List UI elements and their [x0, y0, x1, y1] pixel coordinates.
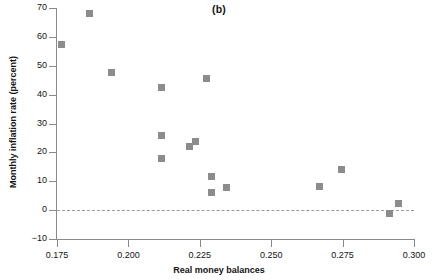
x-axis-tick-label-text: 0.275 [313, 250, 373, 261]
x-axis-tick-label: 0.275 [313, 250, 373, 261]
x-axis-tick [200, 240, 201, 247]
y-axis-tick-label: 60 [0, 32, 47, 41]
x-axis-tick-label-text: 0.300 [384, 250, 438, 261]
y-axis-tick [49, 181, 56, 182]
data-point [223, 184, 230, 191]
x-axis-tick [128, 240, 129, 247]
data-point [58, 41, 65, 48]
data-point [208, 173, 215, 180]
y-axis-tick [49, 152, 56, 153]
y-axis-tick [49, 124, 56, 125]
x-axis-tick-label-text: 0.225 [170, 250, 230, 261]
y-axis-tick-label: −10 [0, 234, 47, 243]
x-axis-tick-label-text: 0.175 [27, 250, 87, 261]
y-axis-tick-label: 70 [0, 3, 47, 12]
y-axis-tick [49, 8, 56, 9]
y-axis-tick [49, 95, 56, 96]
y-axis-tick-label: 0 [0, 205, 47, 214]
y-axis-tick [49, 66, 56, 67]
x-axis-tick [271, 240, 272, 247]
data-point [316, 183, 323, 190]
y-axis-tick [49, 239, 56, 240]
x-axis-tick-label: 0.300 [384, 250, 438, 261]
data-point [338, 166, 345, 173]
x-axis-tick [414, 240, 415, 247]
data-point [208, 189, 215, 196]
data-point [386, 210, 393, 217]
data-point [192, 138, 199, 145]
x-axis-tick-label: 0.175 [27, 250, 87, 261]
data-point [158, 132, 165, 139]
x-axis-line [56, 239, 415, 240]
y-axis-tick-label-text: 60 [3, 32, 47, 41]
x-axis-tick-label-text: 0.200 [98, 250, 158, 261]
x-axis-tick-label: 0.225 [170, 250, 230, 261]
y-axis-tick [49, 210, 56, 211]
data-point [108, 69, 115, 76]
data-point [86, 10, 93, 17]
data-point [203, 75, 210, 82]
x-axis-tick [57, 240, 58, 247]
data-point [395, 200, 402, 207]
plot-area [57, 8, 414, 239]
x-axis-tick [343, 240, 344, 247]
data-point [158, 84, 165, 91]
y-axis-tick-label-text: 70 [3, 3, 47, 12]
y-axis-tick [49, 37, 56, 38]
y-axis-tick-label-text: −10 [3, 234, 47, 243]
y-axis-tick-label-text: 0 [3, 205, 47, 214]
x-axis-tick-label: 0.200 [98, 250, 158, 261]
zero-reference-line [57, 210, 414, 211]
scatter-plot-figure: (b) −10010203040506070 0.1750.2000.2250.… [0, 0, 438, 280]
x-axis-tick-label: 0.250 [241, 250, 301, 261]
data-point [158, 155, 165, 162]
y-axis-title: Monthly inflation rate (percent) [8, 47, 18, 197]
x-axis-title: Real money balances [0, 265, 438, 275]
x-axis-tick-label-text: 0.250 [241, 250, 301, 261]
